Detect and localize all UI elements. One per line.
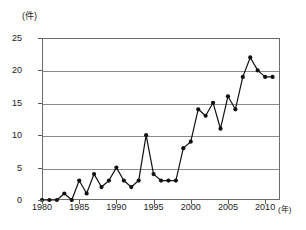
gridline-y-20 (43, 71, 279, 72)
x-tick-mark-1990 (116, 200, 117, 204)
x-tick-mark-1985 (79, 200, 80, 204)
x-tick-mark-1980 (42, 200, 43, 204)
y-tick-mark-10 (38, 135, 42, 136)
y-tick-label-15: 15 (0, 98, 22, 108)
y-tick-label-0: 0 (0, 195, 22, 205)
plot-area (42, 38, 280, 200)
gridline-y-5 (43, 169, 279, 170)
y-tick-label-25: 25 (0, 33, 22, 43)
x-tick-mark-2005 (228, 200, 229, 204)
x-tick-mark-2000 (191, 200, 192, 204)
gridline-y-15 (43, 104, 279, 105)
x-axis-unit-label: (年) (278, 203, 291, 214)
y-tick-mark-25 (38, 38, 42, 39)
y-tick-label-10: 10 (0, 130, 22, 140)
y-tick-mark-5 (38, 168, 42, 169)
x-tick-mark-2010 (265, 200, 266, 204)
y-axis-unit-label: (件) (22, 9, 37, 22)
y-tick-mark-15 (38, 103, 42, 104)
x-tick-mark-1995 (154, 200, 155, 204)
gridline-y-10 (43, 136, 279, 137)
line-chart: (件) (年) 05101520251980198519901995200020… (0, 0, 306, 230)
y-tick-mark-20 (38, 70, 42, 71)
y-tick-label-5: 5 (0, 163, 22, 173)
y-tick-label-20: 20 (0, 65, 22, 75)
